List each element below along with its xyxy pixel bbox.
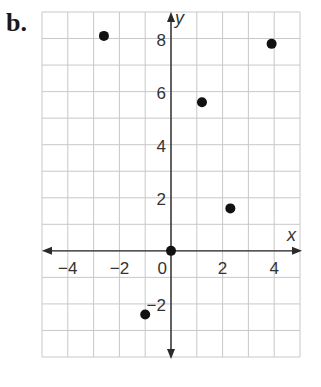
x-tick-label: 2 xyxy=(218,259,227,278)
data-point xyxy=(166,246,176,256)
x-axis-left-arrow-icon xyxy=(42,247,52,255)
x-tick-label: 4 xyxy=(269,259,278,278)
y-tick-label: 6 xyxy=(157,84,166,103)
data-point xyxy=(197,97,207,107)
y-tick-label: 8 xyxy=(157,31,166,50)
x-tick-label: 0 xyxy=(158,259,167,278)
x-axis-label: x xyxy=(286,225,297,245)
data-point xyxy=(225,203,235,213)
y-tick-label: 4 xyxy=(157,137,166,156)
x-tick-label: −4 xyxy=(58,259,77,278)
y-tick-label: 2 xyxy=(157,190,166,209)
data-point xyxy=(267,39,277,49)
x-tick-label: −2 xyxy=(110,259,129,278)
axes xyxy=(42,12,302,359)
scatter-plot: xy−4−2024−22468 xyxy=(0,0,321,387)
y-axis-up-arrow-icon xyxy=(167,12,175,22)
y-axis-label: y xyxy=(173,8,185,28)
data-point xyxy=(99,31,109,41)
data-point xyxy=(140,310,150,320)
